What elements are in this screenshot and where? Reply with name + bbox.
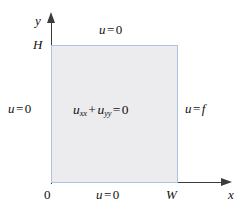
pde-u-yy: uyy bbox=[97, 102, 111, 117]
pde-u-xx: uxx bbox=[73, 102, 87, 117]
pde-rhs: 0 bbox=[122, 102, 129, 117]
bc-left-lhs: u bbox=[8, 101, 15, 116]
y-axis-arrow-icon bbox=[47, 12, 55, 23]
width-tick-label: W bbox=[166, 188, 177, 201]
bc-right-operator: = bbox=[192, 101, 202, 116]
bc-top-rhs: 0 bbox=[116, 22, 123, 37]
pde-u-xx-base: u bbox=[73, 102, 80, 117]
bc-left-operator: = bbox=[15, 101, 25, 116]
bc-right-lhs: u bbox=[185, 101, 192, 116]
bc-bottom-rhs: 0 bbox=[113, 187, 120, 202]
pde-u-xx-subscript: xx bbox=[80, 109, 87, 118]
x-axis-label: x bbox=[228, 188, 234, 201]
bc-top-operator: = bbox=[106, 22, 116, 37]
boundary-condition-top: u=0 bbox=[99, 23, 122, 36]
bc-left-rhs: 0 bbox=[25, 101, 32, 116]
boundary-condition-left: u=0 bbox=[8, 102, 31, 115]
bc-top-lhs: u bbox=[99, 22, 106, 37]
pde-equals-operator: = bbox=[111, 102, 122, 117]
pde-plus-operator: + bbox=[87, 102, 98, 117]
boundary-condition-bottom: u=0 bbox=[96, 188, 119, 201]
x-axis-arrow-icon bbox=[221, 178, 232, 186]
origin-value: 0 bbox=[44, 187, 51, 202]
boundary-condition-right: u=f bbox=[185, 102, 205, 115]
bc-bottom-operator: = bbox=[103, 187, 113, 202]
laplace-bvp-figure: y x H 0 W u=0 u=0 u=f u=0 uxx+uyy=0 bbox=[0, 0, 244, 212]
bc-right-rhs: f bbox=[202, 101, 206, 116]
origin-tick-label: 0 bbox=[44, 188, 51, 201]
laplace-equation: uxx+uyy=0 bbox=[73, 103, 129, 119]
bc-bottom-lhs: u bbox=[96, 187, 103, 202]
height-tick-label: H bbox=[33, 38, 42, 51]
y-axis-label: y bbox=[35, 14, 41, 27]
